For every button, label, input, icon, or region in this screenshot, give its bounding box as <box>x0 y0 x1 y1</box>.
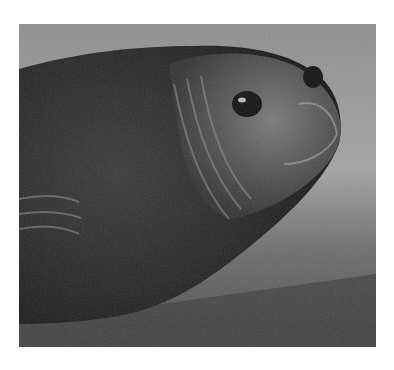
seal-photo <box>19 24 376 347</box>
seal-illustration <box>19 24 376 347</box>
